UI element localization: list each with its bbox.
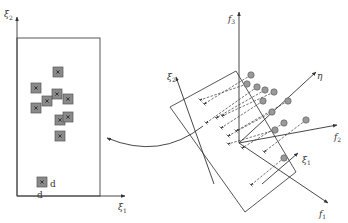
- sample-marker: [63, 94, 73, 104]
- sample-marker: [63, 112, 73, 122]
- sample-marker: [31, 103, 41, 113]
- f2-axis-label: f2: [333, 132, 341, 143]
- projected-sample: [227, 109, 276, 138]
- projected-sample: [250, 155, 288, 187]
- f3-axis-label: f3: [227, 14, 235, 25]
- sample-marker: [53, 67, 63, 77]
- f1-axis-label: f1: [318, 209, 326, 220]
- sample-marker: [37, 177, 47, 187]
- xi2-plane-axis-label: ξ2: [167, 72, 176, 83]
- f1-axis: [239, 143, 328, 203]
- projected-sample: [205, 84, 261, 125]
- point-label-d-below: d: [37, 190, 43, 200]
- left-feature-space: ξ2 ξ1 d d: [4, 9, 127, 214]
- mapping-arrow: [107, 126, 203, 147]
- sample-marker: [31, 83, 41, 93]
- sample-markers: [31, 67, 73, 187]
- xi2-axis-label: ξ2: [4, 9, 13, 21]
- f2-axis: [239, 125, 337, 143]
- right-projection-space: f3 η f2 f1 ξ1 ξ2: [167, 12, 341, 220]
- sample-marker: [42, 96, 52, 106]
- eta-axis-label: η: [317, 71, 323, 81]
- xi1-axis-label: ξ1: [118, 202, 127, 214]
- point-label-d-right: d: [50, 179, 56, 189]
- sample-marker: [52, 89, 62, 99]
- projection-diagram: ξ2 ξ1 d d f3 η f2 f1 ξ1 ξ2: [0, 0, 348, 223]
- xi1-plane-axis-label: ξ1: [302, 155, 311, 166]
- projected-sample: [199, 81, 251, 102]
- sample-marker: [55, 131, 65, 141]
